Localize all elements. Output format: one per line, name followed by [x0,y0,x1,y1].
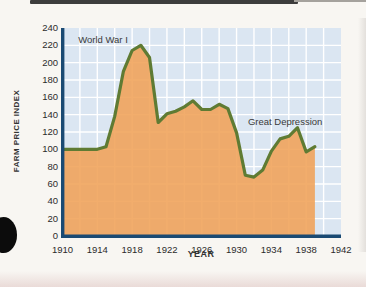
x-tick-label: 1934 [255,244,287,256]
y-axis-title: FARM PRICE INDEX [12,90,21,172]
x-tick-label: 1910 [47,244,79,256]
y-tick-label: 160 [20,91,58,103]
scanned-page: 020406080100120140160180200220240 191019… [0,0,366,287]
y-tick-label: 200 [20,57,58,69]
x-tick-label: 1914 [81,244,113,256]
page-bottom-shading [0,271,366,287]
y-tick-label: 120 [20,126,58,138]
y-tick-label: 20 [20,213,58,225]
x-axis-title: YEAR [188,249,215,259]
x-tick-label: 1922 [151,244,183,256]
x-tick-label: 1942 [325,244,357,256]
x-tick-label: 1918 [116,244,148,256]
y-tick-label: 240 [20,22,58,34]
chart-annotation: World War I [78,34,128,45]
x-tick-label: 1930 [221,244,253,256]
y-tick-label: 60 [20,178,58,190]
y-tick-label: 100 [20,143,58,155]
chart-annotation: Great Depression [248,116,322,127]
y-tick-label: 80 [20,161,58,173]
y-tick-label: 0 [20,230,58,242]
page-edge-shadow [358,18,366,252]
y-tick-label: 140 [20,109,58,121]
x-tick-label: 1938 [290,244,322,256]
y-tick-label: 220 [20,39,58,51]
y-tick-label: 180 [20,74,58,86]
y-tick-label: 40 [20,195,58,207]
